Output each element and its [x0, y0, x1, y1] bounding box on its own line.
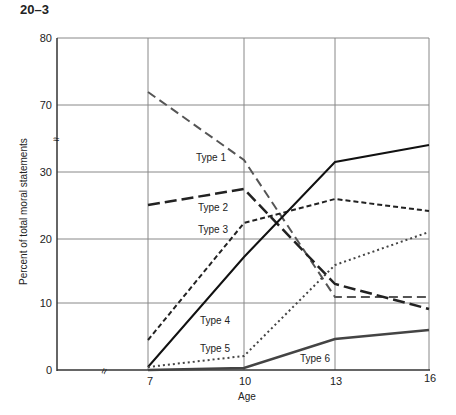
svg-text:Type 5: Type 5: [200, 343, 230, 354]
svg-text:16: 16: [424, 372, 436, 384]
y-ticks: 80 70 30 20 10 0: [40, 32, 52, 376]
svg-text:20: 20: [40, 233, 52, 245]
x-axis-label: Age: [238, 391, 256, 402]
svg-text:7: 7: [147, 375, 153, 387]
svg-text:80: 80: [40, 32, 52, 44]
x-ticks: 7 10 13 16: [147, 372, 436, 387]
svg-text:Type 2: Type 2: [198, 202, 228, 213]
svg-text:Type 4: Type 4: [200, 315, 230, 326]
svg-text:Type 1: Type 1: [196, 152, 226, 163]
svg-text:70: 70: [40, 99, 52, 111]
series-type-6: [148, 330, 429, 370]
svg-text:30: 30: [40, 166, 52, 178]
x-axis-break-icon: ≈: [97, 366, 110, 376]
svg-text:Type 6: Type 6: [300, 353, 330, 364]
svg-text:Type 3: Type 3: [198, 224, 228, 235]
series-type-1: [148, 92, 429, 297]
y-axis-label: Percent of total moral statements: [18, 138, 29, 285]
series-type-5: [148, 232, 429, 367]
series-type-2: [148, 189, 429, 309]
svg-text:13: 13: [330, 375, 342, 387]
svg-text:0: 0: [46, 364, 52, 376]
svg-text:10: 10: [239, 375, 251, 387]
line-chart: ≈ ≈ 80 70 30 20 10 0 7 10 13 16 Age Perc…: [0, 0, 456, 415]
y-axis-break-icon: ≈: [53, 133, 59, 145]
svg-text:10: 10: [40, 297, 52, 309]
